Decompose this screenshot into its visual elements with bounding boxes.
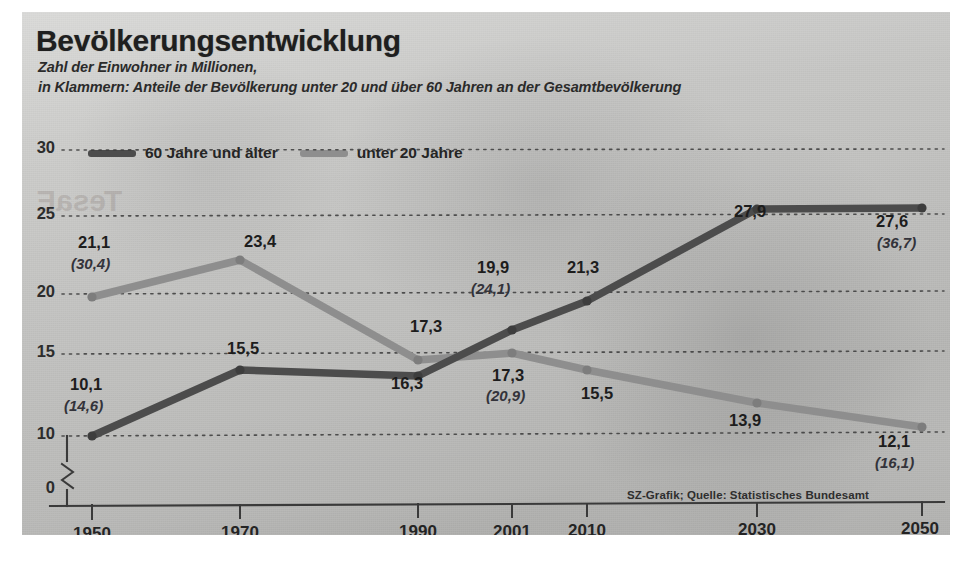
marker-under20-1970 [235,255,244,264]
x-tick-label-2001: 2001 [472,522,552,535]
newsprint-panel: TesaE Bevölkerungsentwicklung Zahl der E… [22,12,950,535]
data-label-over60-2010: 21,3 [567,258,599,277]
share-label-over60-1950: (14,6) [64,397,103,414]
marker-under20-1990 [413,355,422,364]
data-label-under20-1950: 21,1 [78,233,110,252]
data-label-over60-1990: 16,3 [391,374,423,393]
data-label-under20-1970: 23,4 [244,232,276,251]
data-label-under20-2030: 13,9 [729,411,761,430]
marker-under20-1950 [87,292,96,301]
marker-over60-1970 [235,365,244,374]
share-label-over60-2050: (36,7) [877,234,916,251]
marker-under20-2010 [582,365,591,374]
series-markers-over60 [87,203,926,440]
x-tick-label-1970: 1970 [200,523,280,535]
y-tick-label-20: 20 [22,282,55,301]
data-label-under20-2010: 15,5 [581,384,613,403]
data-label-under20-2050: 12,1 [878,432,910,451]
marker-under20-2001 [507,348,516,357]
source-note: SZ-Grafik; Quelle: Statistisches Bundesa… [627,489,869,501]
share-label-over60-2001: (24,1) [471,280,510,297]
data-label-under20-1990: 17,3 [410,317,442,336]
x-tick-label-1990: 1990 [378,522,458,535]
x-tick-label-2010: 2010 [547,521,627,535]
x-tick-label-2050: 2050 [880,519,950,535]
axis-break-zigzag [62,464,73,488]
y-tick-label-30: 30 [22,138,55,157]
marker-under20-2030 [752,398,761,407]
chart-screenshot: TesaE Bevölkerungsentwicklung Zahl der E… [0,0,964,570]
marker-over60-2001 [507,325,516,334]
share-label-under20-1950: (30,4) [71,255,110,272]
data-label-over60-2001: 19,9 [477,258,509,277]
y-tick-label-0: 0 [22,478,55,497]
y-tick-label-15: 15 [22,342,55,361]
share-label-under20-2001: (20,9) [486,387,525,404]
marker-over60-2010 [582,296,591,305]
y-tick-label-25: 25 [22,204,55,223]
share-label-under20-2050: (16,1) [875,454,914,471]
x-axis [50,502,944,506]
marker-under20-2050 [917,422,926,431]
data-label-over60-2050: 27,6 [876,212,908,231]
gridline-30 [62,149,944,150]
gridline-10 [62,432,944,436]
gridline-25 [62,214,944,216]
data-label-over60-1970: 15,5 [227,339,259,358]
marker-over60-1950 [87,431,96,440]
data-label-over60-1950: 10,1 [70,375,102,394]
y-tick-label-10: 10 [22,424,55,443]
x-tick-label-1950: 1950 [52,524,132,535]
data-label-over60-2030: 27,9 [734,202,766,221]
x-tick-label-2030: 2030 [717,520,797,535]
data-label-under20-2001: 17,3 [492,366,524,385]
marker-over60-2050 [917,203,926,212]
